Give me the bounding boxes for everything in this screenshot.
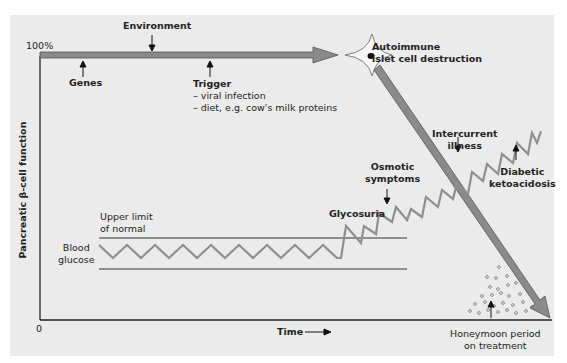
- trigger-title: Trigger: [193, 78, 337, 90]
- label-honeymoon-period: Honeymoon period on treatment: [450, 328, 541, 352]
- intercurrent-line-2: illness: [432, 140, 497, 152]
- upper-limit-line-1: Upper limit: [100, 211, 153, 223]
- intercurrent-line-1: Intercurrent: [432, 128, 497, 140]
- label-intercurrent-illness: Intercurrent illness: [432, 128, 497, 152]
- label-blood-glucose: Blood glucose: [58, 242, 95, 266]
- label-glycosuria: Glycosuria: [329, 208, 385, 220]
- trigger-item-2: – diet, e.g. cow's milk proteins: [193, 102, 337, 114]
- function-plateau-arrow: [40, 47, 338, 63]
- dka-line-1: Diabetic: [489, 166, 556, 178]
- trigger-item-1: – viral infection: [193, 90, 337, 102]
- label-osmotic-symptoms: Osmotic symptoms: [365, 161, 420, 185]
- autoimmune-line-1: Autoimmune: [372, 41, 482, 53]
- blood-glucose-line-2: glucose: [58, 254, 95, 266]
- autoimmune-line-2: islet cell destruction: [372, 53, 482, 65]
- y-axis-label: Pancreatic β-cell function: [17, 122, 28, 259]
- label-diabetic-ketoacidosis: Diabetic ketoacidosis: [489, 166, 556, 190]
- blood-glucose-line-1: Blood: [58, 242, 95, 254]
- upper-limit-line-2: of normal: [100, 223, 153, 235]
- declining-function-arrow: [374, 65, 550, 318]
- honeymoon-dots: [469, 266, 534, 315]
- label-trigger: Trigger – viral infection – diet, e.g. c…: [193, 78, 337, 114]
- osmotic-line-1: Osmotic: [365, 161, 420, 173]
- honeymoon-line-2: on treatment: [450, 340, 541, 352]
- y-axis-origin-tick: 0: [36, 323, 42, 335]
- dka-line-2: ketoacidosis: [489, 178, 556, 190]
- honeymoon-line-1: Honeymoon period: [450, 328, 541, 340]
- osmotic-line-2: symptoms: [365, 173, 420, 185]
- y-axis-top-tick: 100%: [26, 40, 53, 52]
- x-axis-label: Time: [277, 326, 303, 338]
- label-upper-limit: Upper limit of normal: [100, 211, 153, 235]
- label-genes: Genes: [69, 77, 102, 89]
- label-autoimmune: Autoimmune islet cell destruction: [372, 41, 482, 65]
- label-environment: Environment: [123, 20, 191, 32]
